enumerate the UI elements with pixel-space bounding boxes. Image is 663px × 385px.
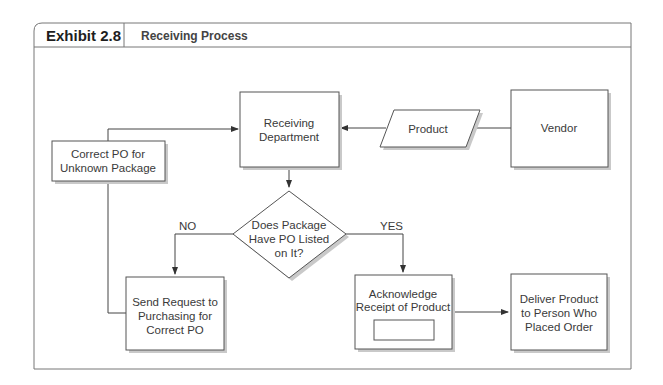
svg-text:Does Package: Does Package [252,219,327,231]
correct-po-node: Correct PO for Unknown Package [52,141,168,184]
svg-text:Deliver Product: Deliver Product [520,293,599,305]
svg-text:Department: Department [259,131,320,143]
vendor-node: Vendor [511,90,611,170]
receiving-department-node: Receiving Department [240,92,342,170]
inner-document-box [374,320,434,340]
receiving-process-diagram: Exhibit 2.8 Receiving Process NO YES Rec… [0,0,663,385]
edge-decision-yes [346,234,403,272]
svg-text:Purchasing for: Purchasing for [138,310,212,322]
yes-label: YES [380,220,403,232]
exhibit-label: Exhibit 2.8 [46,27,121,44]
acknowledge-node: Acknowledge Receipt of Product [355,275,455,352]
svg-text:Vendor: Vendor [541,122,578,134]
svg-text:Product: Product [408,123,448,135]
edge-decision-no [175,234,234,274]
deliver-node: Deliver Product to Person Who Placed Ord… [511,274,610,353]
edge-sendrequest-correctpo [108,181,126,313]
svg-text:Send Request to: Send Request to [132,296,218,308]
svg-text:Have PO Listed: Have PO Listed [249,233,330,245]
svg-text:Unknown Package: Unknown Package [60,162,156,174]
diagram-title: Receiving Process [141,29,248,43]
decision-node: Does Package Have PO Listed on It? [233,191,349,281]
svg-text:on It?: on It? [275,247,304,259]
svg-text:Correct PO for: Correct PO for [71,148,145,160]
svg-text:to Person Who: to Person Who [521,307,597,319]
product-node: Product [380,110,483,150]
edge-correctpo-receiving [108,129,238,141]
svg-text:Acknowledge: Acknowledge [369,288,437,300]
svg-text:Receiving: Receiving [264,117,315,129]
svg-text:Placed Order: Placed Order [525,321,593,333]
send-request-node: Send Request to Purchasing for Correct P… [126,277,227,353]
no-label: NO [179,220,196,232]
svg-text:Receipt of Product: Receipt of Product [356,301,451,313]
svg-text:Correct PO: Correct PO [146,324,204,336]
